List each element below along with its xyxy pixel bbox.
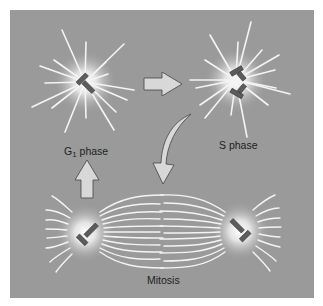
arrow-s-to-mitosis [153,114,191,184]
arrow-g1-to-s [144,72,182,96]
mitotic-spindle [46,195,281,272]
g1-centrosome [32,30,134,132]
s-phase-centrosome [190,22,290,137]
centrosome-cycle-diagram [0,0,323,306]
g1-phase-label: G1 phase [64,145,108,159]
mitosis-label: Mitosis [147,274,180,286]
arrow-mitosis-to-g1 [75,160,99,198]
s-phase-label: S phase [219,139,258,151]
